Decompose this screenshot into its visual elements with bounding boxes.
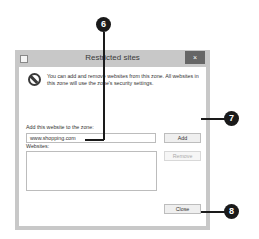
add-button[interactable]: Add: [164, 133, 201, 143]
restricted-sites-dialog: Restricted sites × You can add and remov…: [15, 50, 210, 230]
add-website-label: Add this website to the zone:: [26, 124, 94, 130]
remove-button[interactable]: Remove: [164, 151, 201, 161]
callout-8: 8: [224, 204, 239, 219]
websites-label: Websites:: [26, 143, 49, 149]
title-bar[interactable]: Restricted sites ×: [15, 50, 210, 67]
info-text: You can add and remove websites from thi…: [47, 73, 202, 87]
websites-list[interactable]: [26, 151, 157, 191]
close-button[interactable]: Close: [164, 204, 201, 214]
callout-6: 6: [96, 17, 111, 32]
callout-7: 7: [224, 111, 239, 126]
dialog-body: You can add and remove websites from thi…: [19, 67, 206, 226]
callout-8-line: [201, 211, 225, 213]
dialog-title: Restricted sites: [15, 53, 210, 62]
close-icon[interactable]: ×: [185, 51, 205, 64]
website-input[interactable]: www.shopping.com: [26, 133, 156, 143]
callout-7-line: [201, 118, 225, 120]
callout-6-pointer: [85, 139, 104, 141]
callout-6-line: [103, 32, 105, 140]
restricted-icon: [28, 73, 41, 86]
